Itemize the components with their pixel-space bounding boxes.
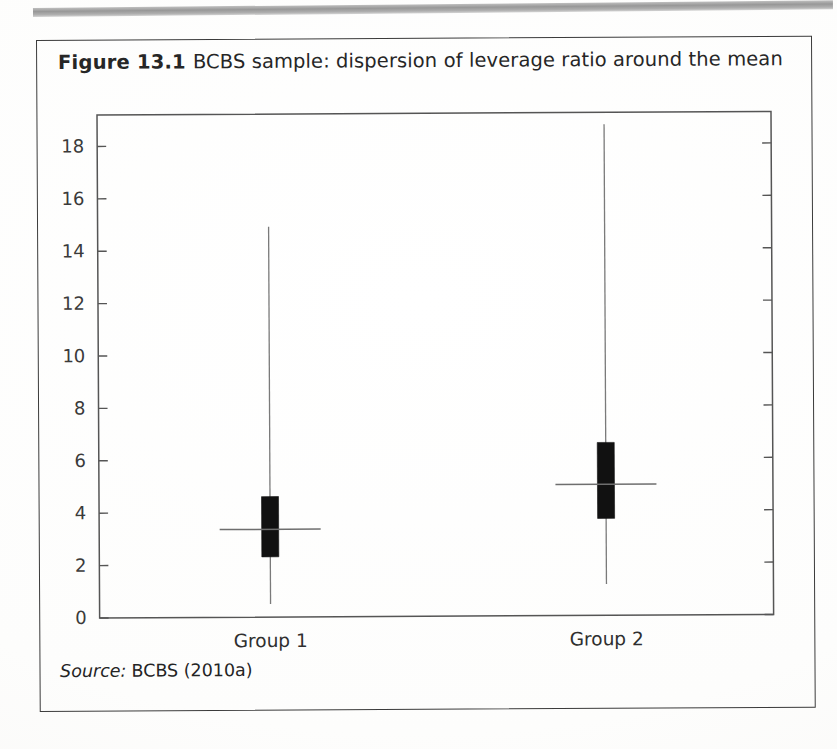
figure-caption-number: Figure 13.1	[58, 50, 186, 74]
figure-caption-text: BCBS sample: dispersion of leverage rati…	[193, 47, 783, 73]
source-note: Source:BCBS (2010a)	[60, 660, 253, 681]
figure-border	[36, 36, 816, 712]
source-label: Source:	[60, 661, 126, 681]
source-value: BCBS (2010a)	[131, 660, 252, 681]
figure-caption: Figure 13.1BCBS sample: dispersion of le…	[58, 46, 798, 76]
